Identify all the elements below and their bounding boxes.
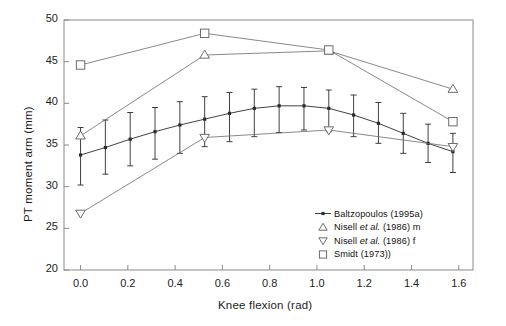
x-tick-label: 0.8: [258, 277, 282, 289]
series-line: [81, 130, 453, 213]
series-marker-triangle-down: [319, 238, 327, 245]
legend-item[interactable]: Smidt (1973)): [312, 248, 460, 262]
series-3: [76, 29, 457, 126]
series-marker-triangle-up: [76, 131, 86, 139]
series-marker-filled-dot: [302, 104, 305, 107]
x-tick-label: 1.4: [400, 277, 424, 289]
y-tick-label: 25: [28, 220, 58, 232]
series-marker-filled-dot: [402, 132, 405, 135]
x-tick-label: 0.0: [69, 277, 93, 289]
legend-item[interactable]: Baltzopoulos (1995a): [312, 207, 460, 221]
legend-symbol: [312, 249, 334, 260]
legend-item[interactable]: Nisell et al. (1986) m: [312, 221, 460, 235]
series-marker-filled-dot: [79, 153, 82, 156]
series-marker-square: [76, 61, 84, 69]
x-tick-label: 0.6: [210, 277, 234, 289]
legend-item[interactable]: Nisell et al. (1986) f: [312, 234, 460, 248]
y-tick-label: 20: [28, 262, 58, 274]
legend-marker-square: [313, 249, 333, 260]
y-tick-label: 35: [28, 137, 58, 149]
legend-marker-triangle-down: [313, 235, 333, 246]
legend-symbol: [312, 208, 334, 219]
y-tick-label: 45: [28, 54, 58, 66]
series-marker-filled-dot: [153, 130, 156, 133]
legend-marker-filled-dot: [313, 208, 333, 219]
x-tick-label: 0.4: [163, 277, 187, 289]
x-tick-label: 1.0: [305, 277, 329, 289]
x-tick-label: 1.6: [447, 277, 471, 289]
series-2: [76, 127, 458, 218]
legend-symbol: [312, 222, 334, 233]
series-marker-square: [325, 46, 333, 54]
series-1: [76, 46, 458, 139]
series-marker-filled-dot: [129, 138, 132, 141]
x-axis-title: Knee flexion (rad): [218, 299, 312, 311]
series-line: [81, 106, 453, 155]
series-marker-filled-dot: [104, 146, 107, 149]
legend-label: Baltzopoulos (1995a): [334, 209, 423, 219]
y-tick-label: 50: [28, 12, 58, 24]
chart-figure: Knee flexion (rad) PT moment arm (mm) Ba…: [0, 0, 506, 326]
series-marker-filled-dot: [352, 113, 355, 116]
series-marker-filled-dot: [327, 107, 330, 110]
series-marker-filled-dot: [278, 104, 281, 107]
y-tick-label: 40: [28, 95, 58, 107]
series-marker-filled-dot: [203, 118, 206, 121]
x-tick-label: 0.2: [116, 277, 140, 289]
legend-label: Nisell et al. (1986) f: [334, 236, 415, 246]
series-marker-triangle-down: [200, 134, 210, 142]
legend-symbol: [312, 235, 334, 246]
series-marker-square: [449, 117, 457, 125]
legend-marker-triangle-up: [313, 222, 333, 233]
series-marker-square: [200, 29, 208, 37]
series-line: [81, 51, 453, 136]
y-tick-label: 30: [28, 179, 58, 191]
series-line: [81, 33, 453, 121]
legend-label: Nisell et al. (1986) m: [334, 222, 420, 232]
series-marker-square: [319, 251, 326, 258]
legend-label: Smidt (1973)): [334, 249, 391, 259]
chart-legend: Baltzopoulos (1995a)Nisell et al. (1986)…: [312, 207, 460, 261]
series-0: [78, 87, 456, 185]
series-marker-triangle-up: [200, 50, 210, 58]
series-marker-filled-dot: [178, 123, 181, 126]
series-marker-triangle-up: [319, 223, 327, 230]
series-marker-filled-dot: [377, 122, 380, 125]
y-axis-title: PT moment arm (mm): [22, 106, 34, 222]
series-marker-filled-dot: [228, 112, 231, 115]
series-marker-triangle-down: [76, 210, 86, 218]
x-tick-label: 1.2: [352, 277, 376, 289]
series-marker-filled-dot: [253, 107, 256, 110]
